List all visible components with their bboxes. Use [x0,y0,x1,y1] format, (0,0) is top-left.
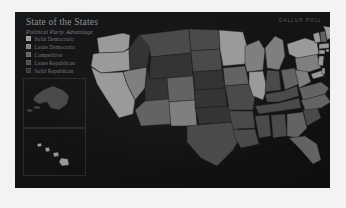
legend-item-leans-republican[interactable]: Leans Republican [26,59,75,67]
state-CO [167,76,195,102]
state-MS [255,115,271,138]
state-MI [265,36,285,70]
legend-item-label: Competitive [35,52,63,58]
legend-item-solid-democratic[interactable]: Solid Democratic [26,35,75,43]
legend-item-label: Solid Democratic [35,36,74,42]
state-SD [191,49,222,72]
state-IN [265,70,281,92]
state-NE [193,70,225,90]
state-WI [245,40,265,72]
legend-swatch-icon [26,44,31,49]
legend-swatch-icon [26,52,31,57]
legend-swatch-icon [26,60,31,65]
state-NJ [318,56,324,66]
state-WY [149,53,193,79]
legend-item-label: Leans Democratic [35,44,76,50]
state-NM [169,100,197,126]
legend-swatch-icon [26,36,31,41]
state-MA [319,43,329,49]
legend-swatch-icon [26,68,31,73]
state-KS [195,88,227,108]
alaska-inset-frame [23,78,86,128]
legend: Solid Democratic Leans Democratic Compet… [26,35,75,75]
legend-item-solid-republican[interactable]: Solid Republican [26,67,75,75]
legend-item-label: Leans Republican [35,60,75,66]
state-GA [287,112,307,138]
gallup-poll-brand: GALLUP POLL [279,18,322,23]
state-LA [233,129,259,148]
state-RI [326,49,329,52]
state-OR [91,49,130,73]
map-panel: State of the States Political Party Adva… [15,12,330,188]
infographic-stage: State of the States Political Party Adva… [0,0,346,208]
state-AR [229,111,255,129]
state-CT [319,50,325,54]
state-DE [322,68,325,74]
state-IA [223,66,249,86]
page-title: State of the States [26,17,98,27]
hawaii-inset-frame [23,128,86,176]
legend-item-leans-democratic[interactable]: Leans Democratic [26,43,75,51]
state-NY [287,38,319,58]
legend-item-competitive[interactable]: Competitive [26,51,75,59]
state-WA [97,33,130,53]
header-block: State of the States Political Party Adva… [26,17,98,36]
state-ND [189,29,220,51]
state-AL [271,114,287,138]
us-choropleth-map[interactable] [83,26,330,178]
state-AZ [135,99,171,126]
legend-item-label: Solid Republican [35,68,74,74]
state-FL [289,136,321,164]
state-shapes [91,26,330,166]
state-MN [219,30,247,66]
